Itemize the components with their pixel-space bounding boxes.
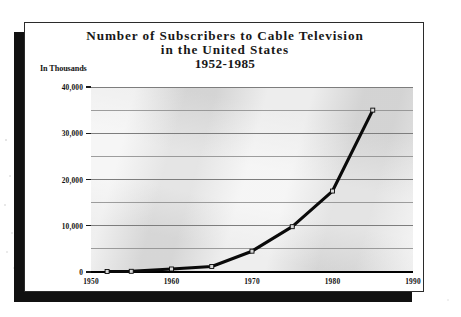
data-series-layer (91, 87, 413, 272)
y-tick-label-20000: 20,000 (29, 176, 83, 185)
x-tick-label-1970: 1970 (230, 277, 274, 286)
y-tick-mark-20000 (86, 179, 91, 180)
chart-figure-panel: Number of Subscribers to Cable Televisio… (24, 22, 424, 292)
data-point-1975 (290, 225, 294, 229)
y-tick-mark-0 (86, 271, 91, 272)
x-tick-label-1980: 1980 (311, 277, 355, 286)
y-tick-label-0: 0 (29, 268, 83, 277)
data-point-1960 (170, 267, 174, 271)
y-tick-mark-10000 (86, 225, 91, 226)
chart-title: Number of Subscribers to Cable Televisio… (33, 29, 417, 72)
data-point-1980 (331, 189, 335, 193)
chart-title-line-3: 1952-1985 (33, 57, 417, 71)
scanned-page: Number of Subscribers to Cable Televisio… (0, 0, 461, 317)
x-tick-label-1960: 1960 (150, 277, 194, 286)
chart-title-line-1: Number of Subscribers to Cable Televisio… (33, 29, 417, 43)
data-point-1965 (210, 264, 214, 268)
data-point-1970 (250, 249, 254, 253)
y-tick-mark-40000 (86, 86, 91, 87)
y-tick-label-10000: 10,000 (29, 222, 83, 231)
chart-title-line-2: in the United States (33, 43, 417, 57)
data-point-1952 (105, 270, 109, 274)
x-tick-label-1990: 1990 (391, 277, 435, 286)
x-tick-label-1950: 1950 (69, 277, 113, 286)
y-tick-label-40000: 40,000 (29, 83, 83, 92)
y-tick-mark-30000 (86, 133, 91, 134)
series-markers (105, 108, 375, 273)
y-tick-label-30000: 30,000 (29, 129, 83, 138)
data-point-1985 (371, 108, 375, 112)
data-point-1955 (129, 269, 133, 273)
y-axis-unit-caption: In Thousands (40, 64, 87, 73)
